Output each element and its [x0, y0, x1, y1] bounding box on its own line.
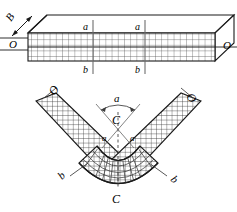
label-outer-b-left: b	[55, 169, 68, 182]
label-center-C-bottom: C	[112, 192, 121, 206]
bent-bar-group: O O a C a a b b C	[36, 83, 201, 212]
label-bent-O-left: O	[45, 83, 62, 98]
angle-arc	[101, 105, 135, 110]
label-inner-a-right: a	[130, 133, 135, 143]
label-axis-O-left: O	[9, 38, 17, 50]
label-inner-a-left: a	[102, 133, 107, 143]
label-outer-b-right: b	[169, 173, 182, 186]
label-center-C-top: C	[112, 113, 121, 127]
label-thickness-B: B	[3, 11, 17, 24]
bent-bar-figure: B O O a a b b	[0, 0, 237, 212]
label-section-b-left: b	[83, 64, 88, 75]
straight-bar-group: B O O a a b b	[0, 11, 237, 75]
label-section-a-left: a	[83, 21, 88, 32]
label-section-b-right: b	[135, 64, 140, 75]
label-axis-O-right: O	[223, 39, 231, 51]
figure-container: B O O a a b b	[0, 0, 237, 212]
label-angle-a: a	[114, 92, 120, 104]
label-section-a-right: a	[135, 21, 140, 32]
bar-top-face	[28, 15, 234, 33]
